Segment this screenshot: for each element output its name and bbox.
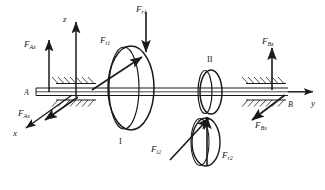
- mating-pinion-outline: [191, 118, 220, 166]
- force-label-fbz: FBz: [261, 36, 274, 47]
- axis-y-label: y: [310, 98, 315, 108]
- force-label-fr1: Fr1: [135, 4, 147, 15]
- gear-2-label: II: [207, 54, 213, 64]
- force-arrow-fbx: [252, 95, 285, 120]
- support-label-a: A: [23, 88, 29, 97]
- axis-z-label: z: [62, 14, 67, 24]
- gear-1-label: I: [119, 136, 122, 146]
- force-label-ft1: Ft1: [99, 35, 110, 46]
- force-diagram: z y x A: [0, 0, 325, 190]
- support-label-b: B: [288, 100, 293, 109]
- force-label-ft2: Ft2: [150, 144, 161, 155]
- axis-z: z: [62, 14, 76, 97]
- force-label-faz: FAz: [23, 39, 36, 50]
- axis-x-label: x: [12, 128, 17, 138]
- force-arrow-ft1: [92, 57, 142, 90]
- force-arrow-ft2: [170, 118, 209, 160]
- force-label-fbx: FBx: [254, 120, 267, 131]
- force-label-fr2: Fr2: [221, 150, 233, 161]
- force-label-fax: FAx: [17, 108, 30, 119]
